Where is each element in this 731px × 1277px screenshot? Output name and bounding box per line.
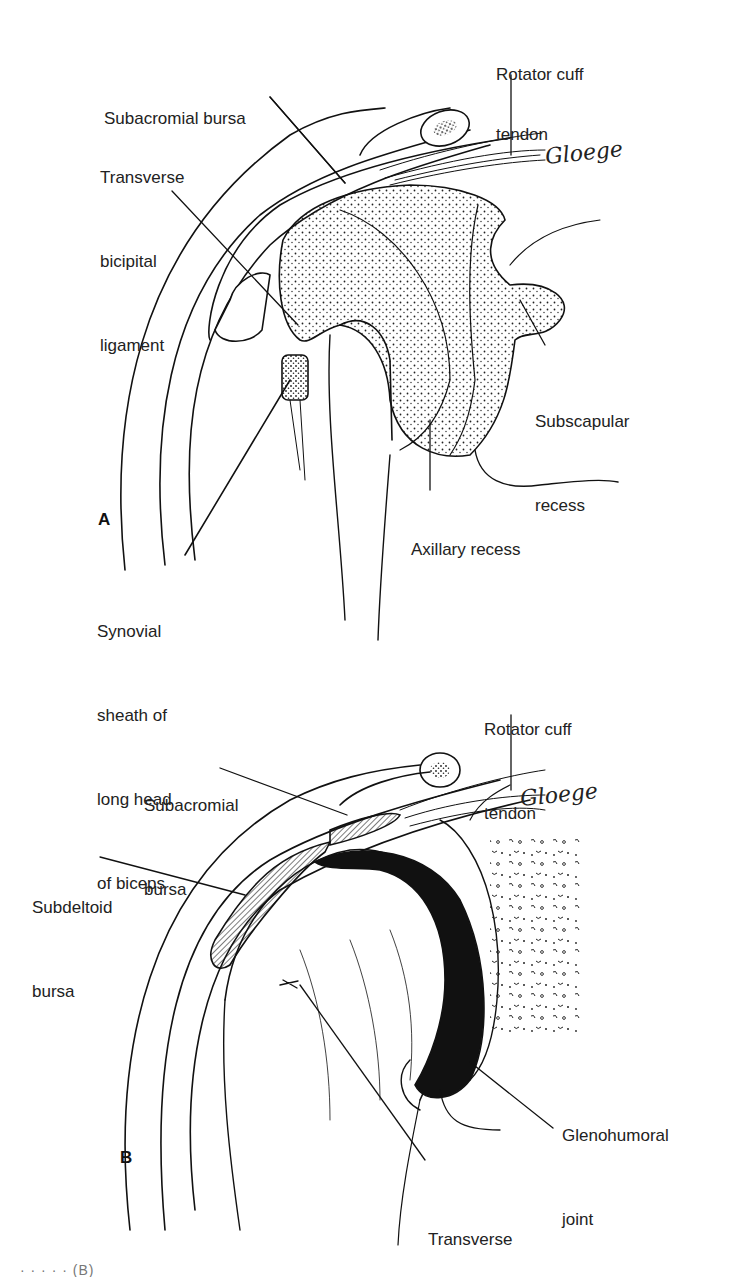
label-b-glenohumoral-joint: Glenohumoral joint — [562, 1066, 669, 1262]
label-b-transverse-bicipital-ligament: Transverse bicipital ligament — [428, 1170, 512, 1277]
label-line: Glenohumoral — [562, 1122, 669, 1150]
label-line: Synovial — [97, 618, 172, 646]
label-line: joint — [562, 1206, 669, 1234]
label-line: bursa — [144, 876, 239, 904]
label-line: sheath of — [97, 702, 172, 730]
label-b-rotator-cuff-tendon: Rotator cuff tendon — [484, 660, 572, 856]
label-line: Rotator cuff — [484, 716, 572, 744]
label-b-subacromial-bursa: Subacromial bursa — [144, 736, 239, 932]
label-line: Transverse — [428, 1226, 512, 1254]
label-b-subdeltoid-bursa: Subdeltoid bursa — [32, 838, 112, 1034]
label-a-transverse-bicipital-ligament: Transverse bicipital ligament — [100, 108, 184, 388]
label-line: Axillary recess — [411, 540, 521, 560]
label-line: recess — [535, 492, 630, 520]
label-a-axillary-recess: Axillary recess — [411, 500, 521, 580]
label-line: ligament — [100, 332, 184, 360]
label-a-subscapular-recess: Subscapular recess — [535, 352, 630, 548]
label-line: Subacromial — [144, 792, 239, 820]
label-line: bursa — [32, 978, 112, 1006]
label-line: Transverse — [100, 164, 184, 192]
label-line: Subdeltoid — [32, 894, 112, 922]
figure-caption-fragment: · · · · · (B) — [20, 1262, 720, 1277]
label-line: Rotator cuff — [496, 65, 584, 85]
panel-letter-b: B — [120, 1148, 132, 1168]
panel-letter-a: A — [98, 510, 110, 530]
label-line: Subscapular — [535, 408, 630, 436]
label-line: bicipital — [100, 248, 184, 276]
